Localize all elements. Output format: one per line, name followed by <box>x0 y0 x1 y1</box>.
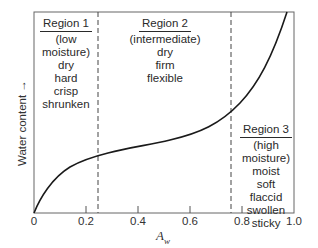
region-2-rule <box>139 31 191 32</box>
region-2-line: firm <box>120 59 210 72</box>
y-axis-label: Water content → <box>16 80 28 166</box>
region-2-title: Region 2 <box>120 17 210 30</box>
region-1-line: dry <box>36 59 96 72</box>
x-tick-marks <box>86 206 242 213</box>
x-tick-label: 1.0 <box>286 215 302 227</box>
x-tick-label: 0.2 <box>78 215 94 227</box>
region-1-rule <box>40 31 92 32</box>
region-3-annotation: Region 3 (high moisture) moist soft flac… <box>236 123 296 230</box>
region-2-annotation: Region 2 (intermediate) dry firm flexibl… <box>120 17 210 85</box>
region-1-annotation: Region 1 (low moisture) dry hard crisp s… <box>36 17 96 111</box>
region-1-line: shrunken <box>36 98 96 111</box>
region-1-line: (low <box>36 33 96 46</box>
region-3-rule <box>240 137 292 138</box>
x-axis-label-main: A <box>156 228 164 243</box>
region-3-line: soft <box>236 178 296 191</box>
x-tick-label: 0.4 <box>130 215 146 227</box>
x-tick-label: 0.8 <box>234 215 250 227</box>
x-tick-label: 0 <box>31 215 37 227</box>
x-tick-label: 0.6 <box>182 215 198 227</box>
x-axis-label: Aw <box>156 228 170 246</box>
region-1-line: hard <box>36 72 96 85</box>
region-3-line: moist <box>236 165 296 178</box>
region-3-title: Region 3 <box>236 123 296 136</box>
region-3-line: flaccid <box>236 191 296 204</box>
region-3-line: moisture) <box>236 152 296 165</box>
region-1-line: moisture) <box>36 46 96 59</box>
region-2-line: dry <box>120 46 210 59</box>
region-2-line: (intermediate) <box>120 33 210 46</box>
region-3-line: (high <box>236 139 296 152</box>
region-1-line: crisp <box>36 85 96 98</box>
region-1-title: Region 1 <box>36 17 96 30</box>
x-axis-label-sub: w <box>164 236 170 246</box>
region-2-line: flexible <box>120 72 210 85</box>
